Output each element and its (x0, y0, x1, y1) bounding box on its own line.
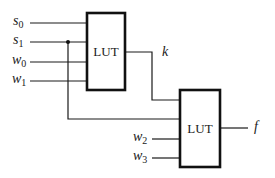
two-lut-circuit-diagram: LUT LUT s0 s1 w0 w1 k w2 w3 f (0, 0, 275, 178)
input-label-w3: w3 (133, 149, 147, 165)
input-label-s0: s0 (13, 14, 23, 30)
lut2-label: LUT (180, 122, 220, 135)
output-label-f: f (254, 120, 258, 134)
input-label-w1: w1 (12, 72, 26, 88)
output-label-k: k (162, 45, 168, 59)
input-label-s1: s1 (13, 33, 23, 49)
input-label-w2: w2 (133, 130, 147, 146)
wire-k (125, 52, 180, 100)
junction-dot (66, 40, 70, 44)
input-label-w0: w0 (12, 53, 26, 69)
lut1-label: LUT (87, 45, 125, 58)
